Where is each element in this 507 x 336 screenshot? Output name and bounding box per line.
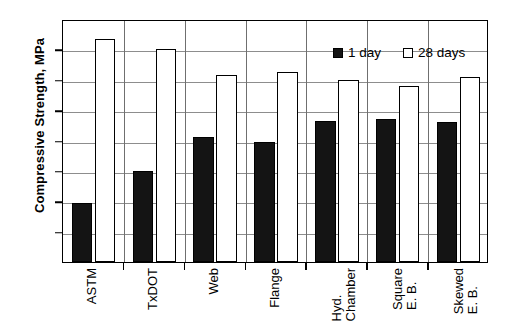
group-divider: [246, 21, 247, 262]
gridline-50: [63, 203, 487, 204]
x-label-line: Flange: [267, 268, 282, 308]
x-group-tick: [427, 263, 429, 270]
bar-txdot-28-days: [156, 49, 177, 262]
x-label-line: Chamber: [343, 268, 357, 321]
y-axis-title: Compressive Strength, MPa: [32, 0, 47, 261]
x-label-line: Hyd.: [329, 295, 344, 322]
x-label-line: Skewed: [451, 268, 466, 314]
x-label-line: ASTM: [84, 268, 99, 304]
y-tick-mark-90: [55, 80, 62, 82]
gridline-40: [63, 234, 487, 235]
plot-area: 1 day 28 days: [62, 20, 488, 263]
x-label-line: Square: [390, 268, 405, 310]
group-divider: [124, 21, 125, 262]
bar-astm-1-day: [72, 203, 93, 262]
bar-hyd-chamber-1-day: [315, 121, 336, 262]
x-label-hyd-chamber: Hyd.Chamber: [330, 268, 357, 321]
x-group-tick: [245, 263, 247, 270]
x-label-web: Web: [207, 268, 221, 295]
bar-flange-1-day: [254, 142, 275, 262]
gridline-70: [63, 143, 487, 144]
y-tick-mark-40: [55, 232, 62, 234]
bar-square-e-b-1-day: [376, 119, 397, 262]
x-label-txdot: TxDOT: [146, 268, 160, 310]
legend-swatch-open-icon: [403, 48, 413, 58]
x-label-astm: ASTM: [85, 268, 99, 304]
legend-swatch-filled-icon: [333, 48, 343, 58]
x-label-square-e-b: SquareE. B.: [391, 268, 418, 310]
bar-txdot-1-day: [133, 171, 154, 262]
chart-legend: 1 day 28 days: [333, 45, 465, 60]
y-tick-mark-60: [55, 171, 62, 173]
bar-skewed-e-b-1-day: [437, 122, 458, 262]
y-tick-mark-50: [55, 202, 62, 204]
legend-label-28-days: 28 days: [418, 45, 465, 60]
bar-astm-28-days: [95, 39, 116, 262]
bar-web-28-days: [216, 75, 237, 262]
bar-web-1-day: [193, 137, 214, 262]
x-label-skewed-e-b: SkewedE. B.: [452, 268, 479, 314]
bar-skewed-e-b-28-days: [460, 77, 481, 262]
bar-hyd-chamber-28-days: [338, 80, 359, 262]
group-divider: [185, 21, 186, 262]
bar-flange-28-days: [277, 72, 298, 262]
bar-chart-figure: Compressive Strength, MPa 11010090807060…: [0, 0, 507, 336]
gridline-80: [63, 112, 487, 113]
y-tick-mark-80: [55, 110, 62, 112]
x-label-flange: Flange: [268, 268, 282, 308]
x-label-line: E. B.: [404, 268, 418, 310]
y-tick-mark-100: [55, 50, 62, 52]
legend-item-1-day: 1 day: [333, 45, 381, 60]
gridline-90: [63, 82, 487, 83]
legend-item-28-days: 28 days: [403, 45, 465, 60]
x-label-line: Web: [206, 268, 221, 295]
legend-label-1-day: 1 day: [348, 45, 381, 60]
bar-square-e-b-28-days: [399, 86, 420, 262]
x-group-tick: [305, 263, 307, 270]
x-group-tick: [366, 263, 368, 270]
group-divider: [306, 21, 307, 262]
x-group-tick: [184, 263, 186, 270]
x-label-line: E. B.: [465, 268, 479, 314]
x-label-line: TxDOT: [145, 268, 160, 310]
y-tick-mark-70: [55, 141, 62, 143]
gridline-60: [63, 173, 487, 174]
x-group-tick: [123, 263, 125, 270]
